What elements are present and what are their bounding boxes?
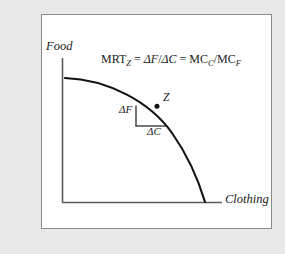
- point-z-marker: [155, 104, 160, 109]
- formula-equals-2: =: [177, 52, 190, 66]
- formula-mc-food-subscript: F: [236, 58, 241, 68]
- formula-delta-c: ΔC: [162, 52, 177, 66]
- label-point-z: Z: [163, 92, 169, 104]
- formula-mrt: MRT: [101, 52, 126, 66]
- figure-root: Food Clothing MRTZ = ΔF/ΔC = MCC/MCF ΔF …: [0, 0, 285, 254]
- label-delta-c: ΔC: [147, 126, 161, 137]
- formula-equals-1: =: [131, 52, 144, 66]
- mrt-formula: MRTZ = ΔF/ΔC = MCC/MCF: [101, 53, 241, 68]
- axis-label-food: Food: [46, 40, 72, 53]
- label-delta-f: ΔF: [119, 104, 132, 115]
- formula-delta-f: ΔF: [144, 52, 158, 66]
- axis-label-clothing: Clothing: [225, 193, 269, 206]
- formula-mc-food: MC: [217, 52, 236, 66]
- formula-mc-clothing: MC: [189, 52, 208, 66]
- ppf-plot: [0, 0, 285, 254]
- ppf-curve: [65, 78, 205, 202]
